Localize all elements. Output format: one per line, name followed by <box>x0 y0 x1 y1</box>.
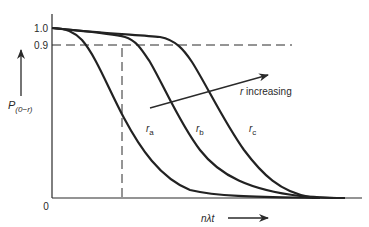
curve-label-ra: ra <box>146 123 154 137</box>
y-axis-label: P(0−r) <box>8 99 33 114</box>
curve-label-rb: rb <box>196 123 204 137</box>
y-tick-1-0: 1.0 <box>34 23 48 34</box>
curve-rb <box>52 28 340 198</box>
r-increasing-label: r increasing <box>240 86 292 97</box>
curve-label-rc: rc <box>249 123 256 137</box>
reliability-chart: 1.0 0.9 0 r increasing ra rb rc P(0−r) n… <box>0 0 369 227</box>
origin-label: 0 <box>43 201 49 212</box>
curve-rc <box>52 28 345 198</box>
y-tick-0-9: 0.9 <box>34 40 48 51</box>
x-axis-label: nλt <box>201 213 215 224</box>
